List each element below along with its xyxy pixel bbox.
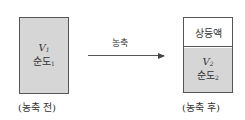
after-purity: 순도2: [197, 70, 219, 84]
purity-subscript: 2: [215, 74, 219, 81]
before-purity: 순도1: [33, 56, 55, 70]
before-volume: V1: [38, 42, 49, 56]
purity-subscript: 1: [51, 60, 55, 67]
volume-subscript: 1: [46, 46, 50, 53]
process-label: 농축: [112, 36, 128, 49]
volume-symbol: V: [202, 56, 209, 67]
before-contents: V1 순도1: [20, 18, 68, 93]
supernatant-layer: 상등액: [184, 18, 232, 47]
volume-symbol: V: [38, 42, 45, 53]
purity-label: 순도: [33, 56, 51, 67]
before-caption: (농축 전): [18, 99, 56, 114]
volume-subscript: 2: [210, 60, 214, 67]
after-caption: (농축 후): [182, 99, 220, 114]
before-container: V1 순도1: [19, 17, 69, 94]
after-volume: V2: [202, 56, 213, 70]
concentrate-layer: V2 순도2: [184, 48, 232, 93]
process-arrow: [88, 55, 164, 56]
supernatant-label: 상등액: [195, 25, 222, 40]
purity-label: 순도: [197, 70, 215, 81]
after-container: 상등액 V2 순도2: [183, 17, 233, 93]
